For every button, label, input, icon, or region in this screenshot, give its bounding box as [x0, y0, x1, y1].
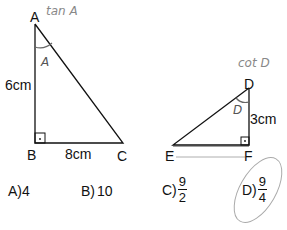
vertex-d: D	[244, 77, 254, 91]
fraction-d: 94	[258, 175, 267, 204]
vertex-c: C	[117, 149, 127, 163]
right-angle-mark-b	[35, 133, 45, 143]
triangle-abc	[35, 24, 123, 143]
option-c[interactable]: C) 92	[162, 175, 187, 204]
angle-label-d: D	[233, 103, 242, 117]
option-b[interactable]: B)10	[81, 183, 113, 199]
vertex-b: B	[27, 148, 36, 162]
vertex-e: E	[165, 149, 174, 163]
angle-arc-d	[236, 98, 249, 103]
option-d[interactable]: D) 94	[242, 175, 267, 204]
note-cot-d: cot D	[238, 56, 270, 70]
vertex-f: F	[244, 149, 253, 163]
note-tan-a: tan A	[46, 4, 78, 18]
fraction-c: 92	[178, 175, 187, 204]
side-ab-length: 6cm	[5, 78, 31, 92]
option-a[interactable]: A)4	[8, 183, 30, 199]
vertex-a: A	[30, 10, 39, 24]
side-df-length: 3cm	[250, 112, 276, 126]
angle-label-a: A	[41, 55, 49, 69]
side-bc-length: 8cm	[65, 147, 91, 161]
